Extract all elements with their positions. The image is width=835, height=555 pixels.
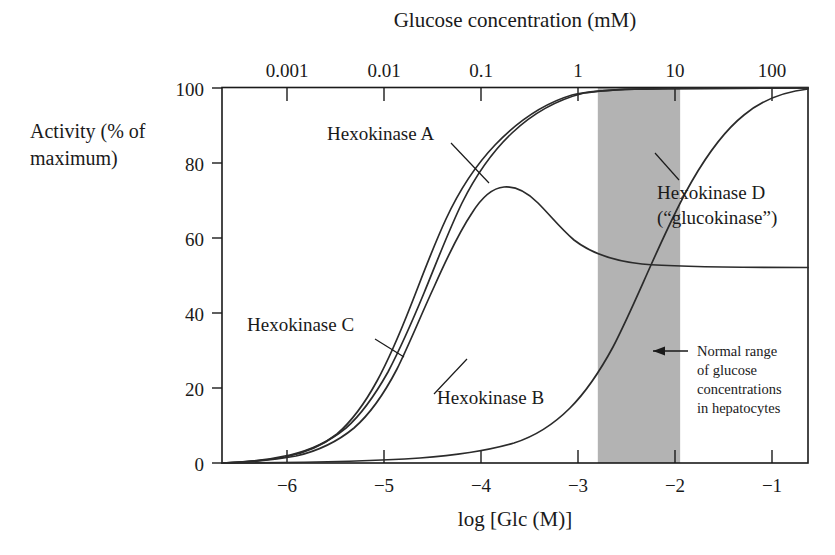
y-tick-label-20: 20	[185, 379, 204, 400]
top-tick-label-2: 0.1	[469, 60, 493, 81]
hexokinase-activity-chart: Glucose concentration (mM) 0.001 0.01 0.…	[0, 0, 835, 555]
top-tick-label-1: 0.01	[367, 60, 400, 81]
y-tick-label-100: 100	[176, 79, 205, 100]
label-hexokinase-d-line2: (“glucokinase”)	[657, 207, 777, 229]
top-axis-ticks	[287, 88, 772, 101]
bottom-tick-label-3: −3	[568, 475, 588, 496]
bottom-tick-label-5: −1	[762, 475, 782, 496]
y-axis-title-line1: Activity (% of	[30, 120, 146, 143]
figure-page: Glucose concentration (mM) 0.001 0.01 0.…	[0, 0, 835, 555]
y-tick-label-80: 80	[185, 154, 204, 175]
y-tick-label-40: 40	[185, 304, 204, 325]
cropped-caption-ghost	[60, 543, 780, 555]
top-tick-label-5: 100	[758, 60, 787, 81]
bottom-axis-title: log [Glc (M)]	[458, 507, 572, 531]
y-tick-label-0: 0	[195, 454, 205, 475]
normal-range-note-line1: Normal range	[697, 343, 777, 359]
top-tick-label-4: 10	[666, 60, 685, 81]
label-hexokinase-a: Hexokinase A	[327, 123, 434, 144]
normal-range-note-line2: of glucose	[697, 362, 757, 378]
top-tick-label-0: 0.001	[266, 60, 309, 81]
bottom-tick-label-2: −4	[471, 475, 492, 496]
bottom-tick-label-4: −2	[665, 475, 685, 496]
bottom-tick-label-0: −6	[277, 475, 297, 496]
y-axis-title-line2: maximum)	[30, 147, 118, 170]
normal-range-note-line4: in hepatocytes	[697, 400, 781, 416]
top-axis-title: Glucose concentration (mM)	[394, 8, 637, 32]
y-axis-ticks	[212, 88, 222, 463]
top-tick-label-3: 1	[573, 60, 583, 81]
normal-range-note-line3: concentrations	[697, 381, 782, 397]
bottom-tick-label-1: −5	[374, 475, 394, 496]
normal-range-band	[598, 88, 680, 463]
label-hexokinase-b: Hexokinase B	[437, 387, 544, 408]
label-hexokinase-d-line1: Hexokinase D	[657, 182, 765, 203]
label-hexokinase-c: Hexokinase C	[247, 314, 354, 335]
y-tick-label-60: 60	[185, 229, 204, 250]
